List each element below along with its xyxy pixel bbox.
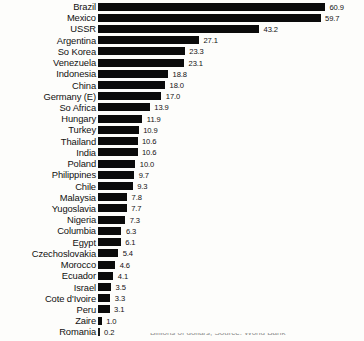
bar: [98, 261, 115, 269]
bar-row: Argentina27.1: [0, 35, 364, 46]
bar-value-label: 0.2: [104, 327, 114, 338]
bar: [98, 47, 185, 55]
bar-row: Zaire1.0: [0, 315, 364, 326]
category-label: Peru: [77, 304, 96, 315]
bar: [98, 171, 134, 179]
horizontal-bar-chart: Brazil60.9Mexico59.7USSR43.2Argentina27.…: [0, 0, 364, 341]
category-label: Turkey: [68, 124, 96, 135]
bar-row: Peru3.1: [0, 304, 364, 315]
bar-row: Nigeria7.3: [0, 214, 364, 225]
category-label: Nigeria: [67, 214, 96, 225]
bar-value-label: 6.1: [125, 237, 135, 248]
bar-row: Cote d'Ivoire3.3: [0, 293, 364, 304]
bar-value-label: 23.3: [189, 46, 203, 57]
bar-row: Chile9.3: [0, 181, 364, 192]
bar: [98, 238, 121, 246]
bar-row: Czechoslovakia5.4: [0, 248, 364, 259]
bar: [98, 148, 138, 156]
chart-caption-clipped: Billions of dollars, Source: World Bank: [150, 333, 364, 341]
category-label: Morocco: [61, 259, 96, 270]
category-label: Yugoslavia: [52, 203, 96, 214]
category-label: Thailand: [61, 136, 96, 147]
bar-value-label: 1.0: [106, 316, 116, 327]
category-label: Venezuela: [53, 57, 96, 68]
bar-row: Malaysia7.8: [0, 192, 364, 203]
bar-value-label: 27.1: [204, 35, 218, 46]
bar: [98, 294, 110, 302]
bar: [98, 160, 135, 168]
bar-value-label: 10.6: [142, 136, 156, 147]
bar-value-label: 10.0: [140, 159, 154, 170]
bar-row: Brazil60.9: [0, 1, 364, 12]
bar: [98, 14, 321, 22]
bar: [98, 193, 127, 201]
bar: [98, 81, 165, 89]
category-label: Czechoslovakia: [32, 248, 96, 259]
bar: [98, 36, 199, 44]
bar-row: Mexico59.7: [0, 12, 364, 23]
bar-value-label: 17.0: [166, 91, 180, 102]
bar-value-label: 7.7: [131, 203, 141, 214]
category-label: USSR: [70, 23, 96, 34]
bar: [98, 92, 161, 100]
bar-value-label: 4.6: [120, 260, 130, 271]
bar-row: Yugoslavia7.7: [0, 203, 364, 214]
bar: [98, 115, 142, 123]
bar-value-label: 18.0: [170, 80, 184, 91]
bar: [98, 283, 111, 291]
bar-row: Hungary11.9: [0, 113, 364, 124]
category-label: So Africa: [59, 102, 96, 113]
bar-row: Indonesia18.8: [0, 68, 364, 79]
bar-value-label: 3.5: [116, 282, 126, 293]
bar-value-label: 10.9: [143, 125, 157, 136]
bar-row: So Korea23.3: [0, 46, 364, 57]
bar-value-label: 9.3: [137, 181, 147, 192]
chart-caption-text: Billions of dollars, Source: World Bank: [150, 333, 285, 338]
category-label: Brazil: [73, 1, 96, 12]
bar: [98, 227, 121, 235]
category-label: India: [76, 147, 96, 158]
category-label: Germany (E): [43, 91, 96, 102]
category-label: Chile: [75, 181, 96, 192]
category-label: Zaire: [75, 315, 96, 326]
category-label: Ecuador: [62, 270, 96, 281]
bar-value-label: 13.9: [154, 102, 168, 113]
bar-row: USSR43.2: [0, 23, 364, 34]
bar: [98, 137, 138, 145]
bar-row: Thailand10.6: [0, 136, 364, 147]
category-label: Poland: [67, 158, 96, 169]
bar-value-label: 9.7: [139, 170, 149, 181]
category-label: Argentina: [57, 35, 96, 46]
bar: [98, 328, 100, 336]
bar: [98, 216, 125, 224]
bar: [98, 59, 184, 67]
bar-value-label: 43.2: [264, 24, 278, 35]
bar-value-label: 4.1: [118, 271, 128, 282]
bar-row: Morocco4.6: [0, 259, 364, 270]
bar-value-label: 10.6: [142, 147, 156, 158]
bar-row: Poland10.0: [0, 158, 364, 169]
bar-row: Germany (E)17.0: [0, 91, 364, 102]
category-label: Columbia: [57, 225, 96, 236]
bar: [98, 204, 127, 212]
bar: [98, 103, 150, 111]
bar-row: Venezuela23.1: [0, 57, 364, 68]
category-label: Mexico: [67, 12, 96, 23]
bar-value-label: 60.9: [330, 2, 344, 13]
category-label: Indonesia: [56, 68, 96, 79]
bar: [98, 249, 118, 257]
bar: [98, 25, 259, 33]
bar-row: Ecuador4.1: [0, 270, 364, 281]
bar: [98, 317, 102, 325]
bar: [98, 182, 133, 190]
bar-row: Turkey10.9: [0, 124, 364, 135]
category-label: China: [72, 80, 96, 91]
bar-row: So Africa13.9: [0, 102, 364, 113]
bar: [98, 272, 113, 280]
bar-value-label: 7.3: [130, 215, 140, 226]
bar: [98, 70, 168, 78]
bar-row: China18.0: [0, 80, 364, 91]
bar-value-label: 11.9: [147, 114, 161, 125]
category-label: Israel: [74, 282, 96, 293]
bar-value-label: 6.3: [126, 226, 136, 237]
